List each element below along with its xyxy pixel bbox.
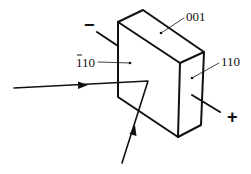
- label-110: 110: [221, 54, 240, 69]
- face-dot-front: [129, 62, 132, 65]
- label-001: 001: [186, 9, 206, 24]
- face-dot-top: [160, 32, 163, 35]
- crystal-diagram: 001 110 110 − +: [0, 0, 251, 174]
- label-bar110: 110: [76, 55, 95, 70]
- leader-110: [192, 63, 219, 78]
- diagram-canvas: 001 110 110 − +: [0, 0, 251, 174]
- negative-sign: −: [84, 15, 95, 35]
- positive-electrode-wire: [192, 95, 220, 112]
- negative-electrode-wire: [97, 32, 118, 46]
- leader-bar110: [98, 62, 130, 63]
- face-dot-right: [191, 77, 194, 80]
- positive-sign: +: [227, 107, 238, 127]
- right-face: [178, 52, 204, 137]
- light-beam: [14, 81, 148, 163]
- crystal-block: [118, 10, 204, 137]
- beam-arrow-incident-icon: [78, 82, 88, 90]
- label-bar110-digits: 110: [76, 55, 95, 70]
- front-face: [118, 22, 180, 137]
